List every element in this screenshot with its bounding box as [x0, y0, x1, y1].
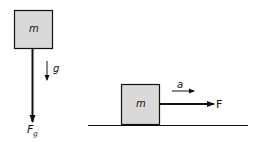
applied-force-label: F — [216, 99, 222, 110]
acceleration-label: a — [177, 80, 183, 90]
diagram-canvas — [0, 0, 261, 142]
gravity-force-label: Fg — [27, 124, 38, 138]
left-block-mass-label: m — [29, 24, 39, 34]
gravity-label: g — [53, 64, 59, 74]
right-block-mass-label: m — [136, 99, 146, 109]
